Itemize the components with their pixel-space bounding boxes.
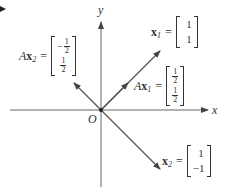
origin-dot [99,108,103,112]
corner-arrow-icon [0,6,6,12]
matrix-Ax2: −12 12 [51,36,76,76]
x-axis-label: x [212,104,217,116]
matrix-x2: 1 −1 [187,145,211,177]
vector-Ax2 [74,83,101,110]
origin-label: O [88,113,97,125]
equation-Ax1: Ax1 = 12 12 [134,66,184,106]
equation-Ax2: Ax2 = −12 12 [19,36,76,76]
equation-x2: x2 = 1 −1 [162,145,211,177]
vector-Ax1 [101,83,128,110]
y-axis-label: y [98,4,103,16]
matrix-Ax1: 12 12 [166,66,184,106]
matrix-x1: 1 1 [176,16,198,48]
vector-x2 [101,110,160,169]
equation-x1: x1 = 1 1 [151,16,198,48]
